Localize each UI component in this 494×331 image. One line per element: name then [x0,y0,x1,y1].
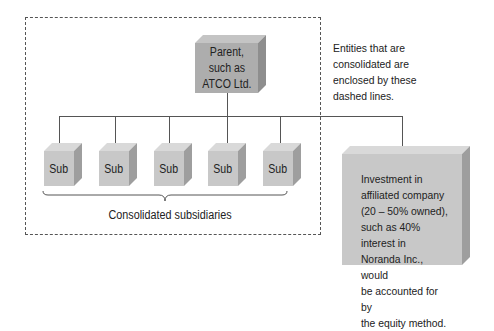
parent-label-line: such as [202,60,251,76]
investment-top-face [342,146,470,154]
sub-connector [115,116,116,143]
dashed-lines-note: Entities that are consolidated are enclo… [333,40,432,104]
investment-affiliate-box: Investment in affiliated company (20 – 5… [342,146,470,265]
sub-front-face: Sub [99,151,129,186]
investment-line: Investment in [361,171,450,187]
sub-front-face: Sub [263,151,293,186]
subsidiary-box: Sub [263,143,301,186]
subsidiary-box: Sub [154,143,192,186]
parent-front-face: Parent, such as ATCO Ltd. [195,43,258,93]
sub-connector [227,116,228,143]
sub-label: Sub [50,162,69,176]
parent-label: Parent, such as ATCO Ltd. [202,44,251,92]
investment-side-face [462,146,470,265]
parent-label-line: ATCO Ltd. [202,76,251,92]
investment-connector [402,116,403,146]
sub-connector [280,116,281,143]
parent-connector [227,93,228,116]
investment-line: such as 40% interest in [361,219,450,251]
note-line: dashed lines. [333,88,432,104]
investment-text: Investment in affiliated company (20 – 5… [342,154,450,331]
investment-line: affiliated company [361,187,450,203]
investment-line: (20 – 50% owned), [361,203,450,219]
sub-front-face: Sub [154,151,184,186]
investment-line: the equity method. [361,315,450,331]
sub-label: Sub [160,162,179,176]
sub-label: Sub [269,162,288,176]
parent-label-line: Parent, [202,44,251,60]
note-line: enclosed by these [333,72,432,88]
sub-connector [169,116,170,143]
sub-label: Sub [214,162,233,176]
note-line: Entities that are [333,40,432,56]
investment-front-face: Investment in affiliated company (20 – 5… [342,154,462,265]
sub-label: Sub [105,162,124,176]
sub-front-face: Sub [208,151,238,186]
subsidiary-box: Sub [208,143,246,186]
parent-entity-box: Parent, such as ATCO Ltd. [195,35,266,93]
parent-side-face [258,35,266,93]
parent-top-face [195,35,266,43]
subsidiary-box: Sub [44,143,82,186]
investment-line: Noranda Inc., would [361,251,450,283]
horizontal-connector [59,116,403,117]
consolidated-subsidiaries-label: Consolidated subsidiaries [44,208,296,222]
investment-line: be accounted for by [361,283,450,315]
sub-connector [59,116,60,143]
sub-front-face: Sub [44,151,74,186]
subsidiary-box: Sub [99,143,137,186]
curly-brace [42,190,288,204]
note-line: consolidated are [333,56,432,72]
